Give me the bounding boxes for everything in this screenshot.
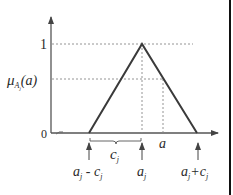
triangular-membership-curve	[89, 44, 197, 133]
brace-label: cj	[110, 146, 120, 164]
y-tick-0: 0	[41, 127, 47, 141]
label-peak: aj	[137, 164, 147, 181]
width-brace	[90, 138, 141, 144]
y-level-label: μAj(a)	[6, 72, 37, 91]
diagram-canvas: 1 0 μAj(a) a cj aj - cj aj aj+cj	[0, 0, 233, 195]
y-tick-1: 1	[40, 37, 47, 52]
x-point-a-label: a	[159, 136, 166, 151]
label-right-base: aj+cj	[181, 164, 209, 181]
label-left-base: aj - cj	[73, 164, 103, 181]
membership-function-diagram: 1 0 μAj(a) a cj aj - cj aj aj+cj	[0, 0, 233, 195]
